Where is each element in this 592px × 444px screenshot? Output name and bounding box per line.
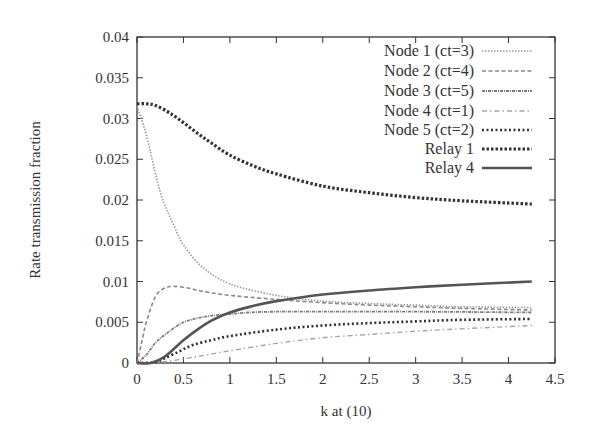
y-tick-label: 0.035 [95, 70, 129, 86]
y-tick-label: 0.005 [95, 314, 129, 330]
y-tick-label: 0.015 [95, 233, 129, 249]
line-chart: 00.511.522.533.544.5 00.0050.010.0150.02… [0, 0, 592, 444]
series-line-node-5-ct-2 [137, 319, 532, 363]
legend-label-node-4-ct-1: Node 4 (ct=1) [384, 102, 474, 120]
legend-label-node-1-ct-3: Node 1 (ct=3) [384, 42, 474, 60]
legend-label-node-2-ct-4: Node 2 (ct=4) [384, 62, 474, 80]
y-tick-label: 0.04 [103, 29, 130, 45]
x-tick-label: 3 [412, 371, 420, 387]
x-tick-label: 2.5 [360, 371, 379, 387]
legend-label-node-5-ct-2: Node 5 (ct=2) [384, 121, 474, 139]
plot-frame [137, 37, 555, 363]
x-tick-label: 4.5 [546, 371, 565, 387]
y-tick-label: 0.03 [103, 111, 129, 127]
x-tick-label: 0 [133, 371, 141, 387]
x-tick-label: 0.5 [174, 371, 193, 387]
y-axis-ticks: 00.0050.010.0150.020.0250.030.0350.04 [95, 29, 555, 371]
x-tick-label: 3.5 [453, 371, 472, 387]
legend-label-node-3-ct-5: Node 3 (ct=5) [384, 82, 474, 100]
y-axis-label: Rate transmission fraction [27, 121, 43, 279]
legend-label-relay-4: Relay 4 [425, 159, 474, 177]
x-tick-label: 4 [505, 371, 513, 387]
legend: Node 1 (ct=3)Node 2 (ct=4)Node 3 (ct=5)N… [384, 42, 532, 177]
series-line-node-3-ct-5 [137, 312, 532, 363]
y-tick-label: 0.02 [103, 192, 129, 208]
x-axis-ticks: 00.511.522.533.544.5 [133, 37, 564, 387]
x-axis-label: k at (10) [321, 403, 372, 420]
y-tick-label: 0 [122, 355, 130, 371]
plot-border [137, 37, 555, 363]
series-line-relay-4 [137, 282, 532, 364]
y-tick-label: 0.025 [95, 151, 129, 167]
x-tick-label: 1.5 [267, 371, 286, 387]
x-tick-label: 1 [226, 371, 234, 387]
legend-label-relay-1: Relay 1 [425, 140, 474, 158]
x-tick-label: 2 [319, 371, 327, 387]
y-tick-label: 0.01 [103, 274, 129, 290]
